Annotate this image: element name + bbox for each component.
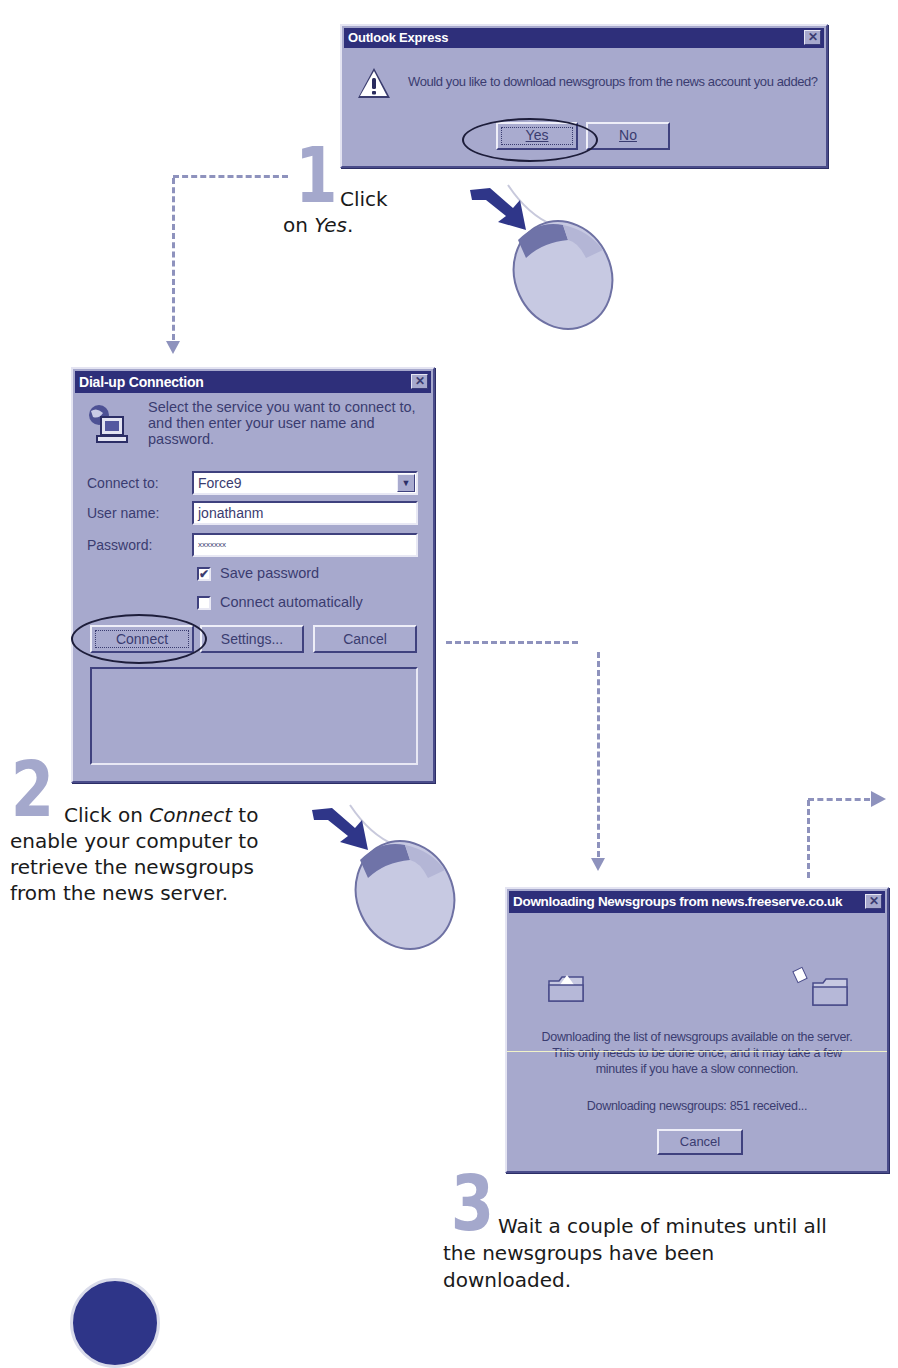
- highlight-ellipse-yes: [462, 118, 598, 162]
- connect-to-dropdown[interactable]: Force9 ▼: [192, 471, 418, 495]
- step1-line2: on Yes.: [283, 212, 403, 238]
- warning-icon: [356, 66, 392, 100]
- download-title-bar: Downloading Newsgroups from news.freeser…: [509, 891, 885, 913]
- dialup-connection-dialog: Dial-up Connection ✕ Select the service …: [71, 367, 435, 783]
- source-folder-icon: [547, 971, 587, 1005]
- settings-button[interactable]: Settings...: [200, 625, 304, 653]
- step2-emphasis: Connect: [149, 803, 232, 827]
- download-dialog-title: Downloading Newsgroups from news.freeser…: [513, 894, 842, 909]
- step3-line1: Wait a couple of minutes until all: [443, 1213, 883, 1240]
- download-close-button[interactable]: ✕: [865, 894, 882, 909]
- connect-automatically-label: Connect automatically: [220, 594, 363, 610]
- step1-caption: Click on Yes.: [283, 186, 403, 238]
- close-icon: ✕: [869, 894, 879, 908]
- step3-line2: the newsgroups have been: [443, 1240, 883, 1267]
- arrow-down-icon: [165, 340, 181, 356]
- download-status: Downloading newsgroups: 851 received...: [507, 1099, 887, 1113]
- password-label: Password:: [87, 537, 152, 553]
- password-masked-value: xxxxxxx: [198, 540, 226, 549]
- cancel-button-label: Cancel: [343, 631, 387, 647]
- scan-line-artifact: [507, 1051, 887, 1052]
- download-cancel-label: Cancel: [680, 1134, 720, 1149]
- outlook-dialog-title: Outlook Express: [348, 30, 448, 45]
- close-icon: ✕: [415, 374, 425, 388]
- arrow-down-icon: [590, 857, 606, 873]
- cancel-button[interactable]: Cancel: [313, 625, 417, 653]
- step2-prefix: Click on: [64, 803, 149, 827]
- step2-line3: retrieve the newsgroups: [10, 854, 310, 880]
- close-icon: ✕: [808, 30, 818, 44]
- download-message-line1: Downloading the list of newsgroups avail…: [507, 1029, 887, 1045]
- downloading-newsgroups-dialog: Downloading Newsgroups from news.freeser…: [505, 887, 889, 1173]
- download-message-line3: minutes if you have a slow connection.: [507, 1061, 887, 1077]
- step3-line3: downloaded.: [443, 1267, 883, 1294]
- save-password-checkbox[interactable]: ✔: [197, 567, 211, 581]
- step3-caption: Wait a couple of minutes until all the n…: [443, 1213, 883, 1294]
- step2-line2: enable your computer to: [10, 828, 310, 854]
- dialup-intro-text: Select the service you want to connect t…: [148, 399, 423, 447]
- connector-line: [172, 178, 175, 340]
- username-label: User name:: [87, 505, 159, 521]
- highlight-ellipse-connect: [71, 614, 207, 664]
- mouse-click-illustration: [310, 800, 460, 950]
- step1-emphasis: Yes: [314, 213, 347, 237]
- dropdown-button[interactable]: ▼: [397, 474, 415, 492]
- dialup-dialog-title: Dial-up Connection: [79, 374, 204, 390]
- destination-folder-icon: [791, 965, 851, 1009]
- download-message-line2: This only needs to be done once, and it …: [507, 1045, 887, 1061]
- step2-line4: from the news server.: [10, 880, 310, 906]
- dialup-close-button[interactable]: ✕: [411, 374, 428, 389]
- step2-line1: Click on Connect to: [10, 802, 310, 828]
- connect-to-label: Connect to:: [87, 475, 159, 491]
- step1-prefix: on: [283, 213, 314, 237]
- connector-line: [808, 798, 870, 801]
- checkmark-icon: ✔: [199, 567, 209, 581]
- connector-line: [446, 641, 578, 644]
- save-password-label: Save password: [220, 565, 319, 581]
- connect-automatically-checkbox[interactable]: [197, 596, 211, 610]
- mouse-click-illustration: [468, 180, 618, 330]
- download-cancel-button[interactable]: Cancel: [657, 1129, 743, 1155]
- settings-button-label: Settings...: [221, 631, 283, 647]
- arrow-right-icon: [870, 790, 888, 808]
- chevron-down-icon: ▼: [402, 478, 411, 488]
- step2-suffix: to: [232, 803, 258, 827]
- connector-line: [597, 652, 600, 857]
- outlook-title-bar: Outlook Express ✕: [344, 28, 824, 48]
- no-button[interactable]: No: [586, 122, 670, 150]
- no-button-label: No: [619, 127, 637, 143]
- connector-line: [173, 175, 288, 178]
- dialup-title-bar: Dial-up Connection ✕: [75, 371, 431, 393]
- page-badge: [70, 1278, 160, 1368]
- outlook-close-button[interactable]: ✕: [804, 30, 821, 45]
- connector-line: [807, 800, 810, 878]
- username-input[interactable]: jonathanm: [192, 501, 418, 525]
- outlook-express-dialog: Outlook Express ✕ Would you like to down…: [340, 24, 828, 168]
- connect-to-value: Force9: [198, 475, 242, 491]
- step1-suffix: .: [347, 213, 353, 237]
- outlook-message: Would you like to download newsgroups fr…: [408, 74, 818, 89]
- network-computer-icon: [85, 403, 131, 447]
- status-panel: [90, 667, 418, 765]
- step2-caption: Click on Connect to enable your computer…: [10, 802, 310, 906]
- password-input[interactable]: xxxxxxx: [192, 533, 418, 557]
- download-message: Downloading the list of newsgroups avail…: [507, 1029, 887, 1077]
- step1-line1: Click: [283, 186, 403, 212]
